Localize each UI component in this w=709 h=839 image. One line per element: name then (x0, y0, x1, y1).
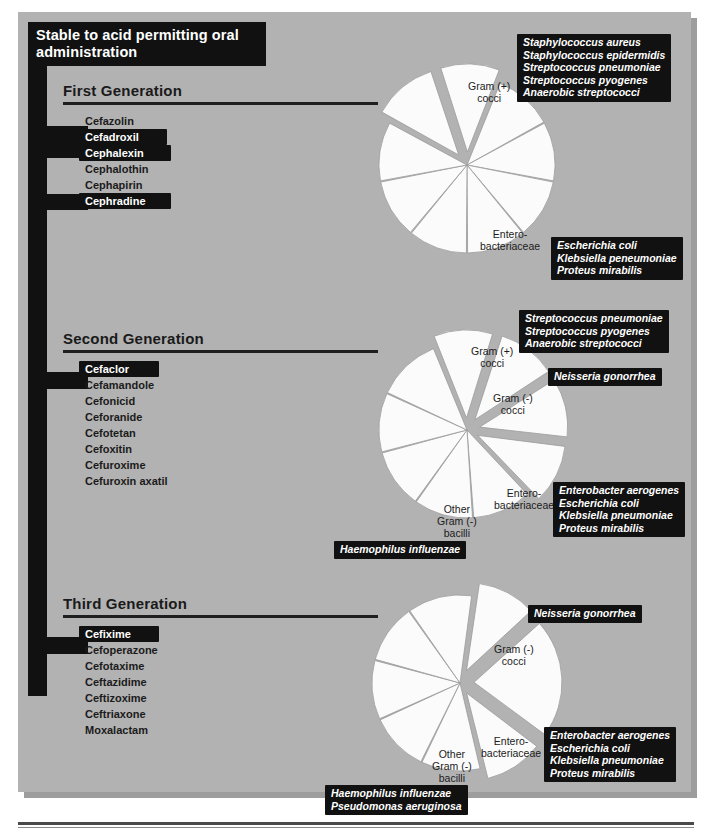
drug-item[interactable]: Cephalexin (63, 145, 383, 161)
pie3-leader-entero: Entero-bacteriaceae (481, 735, 541, 759)
drug-label: Cefoxitin (85, 443, 132, 455)
pie2-callout-neisseria: Neisseria gonorrhea (548, 368, 662, 386)
pie1-leader-entero: Entero-bacteriaceae (480, 228, 540, 252)
drug-item[interactable]: Cefuroxin axatil (63, 473, 383, 489)
drug-label: Ceftazidime (85, 676, 147, 688)
drug-item[interactable]: Cefotetan (63, 425, 383, 441)
generation-block-third: Third Generation Cefixime Cefoperazone C… (63, 595, 383, 738)
pie2-leader-gram-pos: Gram (+)cocci (471, 345, 513, 369)
drug-item[interactable]: Cefazolin (63, 113, 383, 129)
drug-item[interactable]: Cefadroxil (63, 129, 383, 145)
drug-label: Cefazolin (85, 115, 134, 127)
drug-item[interactable]: Ceforanide (63, 409, 383, 425)
pie2-callout-haemophilus: Haemophilus influenzae (334, 541, 466, 559)
drug-label: Cefuroxin axatil (85, 475, 168, 487)
drug-label: Cefadroxil (85, 131, 139, 143)
drug-item[interactable]: Cefonicid (63, 393, 383, 409)
drug-label: Ceftriaxone (85, 708, 146, 720)
drug-label: Cefotetan (85, 427, 136, 439)
drug-item[interactable]: Cefaclor (63, 361, 383, 377)
drug-item[interactable]: Moxalactam (63, 722, 383, 738)
drug-item[interactable]: Ceftizoxime (63, 690, 383, 706)
drug-label: Cefonicid (85, 395, 135, 407)
generation-rule-first (63, 102, 378, 105)
pie1-callout-entero: Escherichia coli Klebsiella peneumoniae … (551, 237, 683, 280)
pie3-leader-other-bacilli: Other Gram (-) bacilli (432, 748, 472, 784)
pie1-leader-gram-pos: Gram (+)cocci (468, 80, 510, 104)
drug-label: Cefixime (85, 628, 131, 640)
pie2-callout-gram-pos: Streptococcus pneumoniae Streptococcus p… (519, 310, 669, 353)
drug-item[interactable]: Cefoxitin (63, 441, 383, 457)
generation-block-first: First Generation Cefazolin Cefadroxil Ce… (63, 82, 383, 209)
pie2-callout-entero: Enterobacter aerogenes Escherichia coli … (553, 482, 685, 537)
drug-label: Cephalexin (85, 147, 144, 159)
drug-item[interactable]: Cefoperazone (63, 642, 383, 658)
drug-label: Ceforanide (85, 411, 142, 423)
bottom-rule-light (18, 827, 694, 828)
pie2-leader-entero: Entero-bacteriaceae (494, 487, 554, 511)
drug-label: Cefaclor (85, 363, 129, 375)
bottom-rule (18, 822, 694, 825)
drug-label: Cephalothin (85, 163, 149, 175)
drug-item[interactable]: Cefamandole (63, 377, 383, 393)
drug-item[interactable]: Cefuroxime (63, 457, 383, 473)
page-title: Stable to acid permitting oral administr… (28, 22, 266, 66)
pie3-leader-gram-neg-cocci: Gram (-)cocci (494, 643, 534, 667)
drug-item[interactable]: Ceftriaxone (63, 706, 383, 722)
drug-label: Cephradine (85, 195, 146, 207)
generation-rule-second (63, 350, 378, 353)
pie1-callout-gram-pos: Staphylococcus aureus Staphylococcus epi… (517, 34, 671, 102)
pie2-leader-other-bacilli: Other Gram (-) bacilli (437, 503, 477, 539)
drug-label: Ceftizoxime (85, 692, 147, 704)
generation-title-third: Third Generation (63, 595, 383, 612)
pie3-callout-haemophilus: Haemophilus influenzae Pseudomonas aerug… (325, 785, 468, 815)
generation-rule-third (63, 615, 378, 618)
pie2-leader-gram-neg-cocci: Gram (-)cocci (493, 392, 533, 416)
generation-block-second: Second Generation Cefaclor Cefamandole C… (63, 330, 383, 489)
drug-item[interactable]: Cephalothin (63, 161, 383, 177)
drug-label: Cephapirin (85, 179, 142, 191)
drug-label: Cefuroxime (85, 459, 146, 471)
drug-item[interactable]: Cefixime (63, 626, 383, 642)
pie3-callout-entero: Enterobacter aerogenes Escherichia coli … (544, 727, 676, 782)
generation-title-second: Second Generation (63, 330, 383, 347)
drug-label: Cefotaxime (85, 660, 144, 672)
generation-title-first: First Generation (63, 82, 383, 99)
drug-label: Moxalactam (85, 724, 148, 736)
drug-item[interactable]: Cephradine (63, 193, 383, 209)
pie3-callout-neisseria: Neisseria gonorrhea (528, 605, 642, 623)
drug-item[interactable]: Ceftazidime (63, 674, 383, 690)
drug-item[interactable]: Cefotaxime (63, 658, 383, 674)
drug-label: Cefamandole (85, 379, 154, 391)
drug-label: Cefoperazone (85, 644, 158, 656)
drug-item[interactable]: Cephapirin (63, 177, 383, 193)
